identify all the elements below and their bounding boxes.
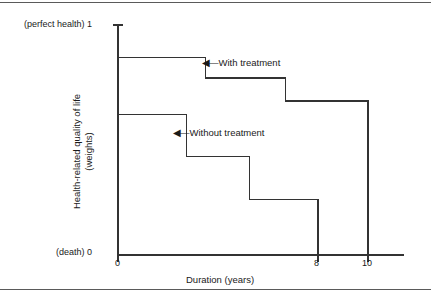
annotation-without-treatment: ◀—Without treatment: [173, 127, 264, 138]
annotation-with-treatment-label: With treatment: [219, 57, 281, 68]
annotation-with-treatment: ◀—With treatment: [202, 57, 280, 68]
y-axis-tick-label-top: (perfect health) 1: [24, 19, 92, 30]
left-arrow-icon: ◀—: [173, 127, 189, 138]
x-axis-tick-label-10: 10: [362, 258, 372, 269]
annotation-without-treatment-label: Without treatment: [190, 127, 265, 138]
x-axis-tick-label-0: 0: [115, 258, 120, 269]
y-axis-title: Health-related quality of life (weights): [71, 52, 94, 252]
x-axis-tick-label-8: 8: [314, 258, 319, 269]
x-axis-title: Duration (years): [186, 274, 254, 285]
left-arrow-icon: ◀—: [202, 57, 218, 68]
y-axis-title-line1: Health-related quality of life: [71, 52, 83, 252]
figure-container: (perfect health) 1 (death) 0 0 8 10 Dura…: [0, 0, 431, 298]
y-axis-title-line2: (weights): [82, 52, 94, 252]
